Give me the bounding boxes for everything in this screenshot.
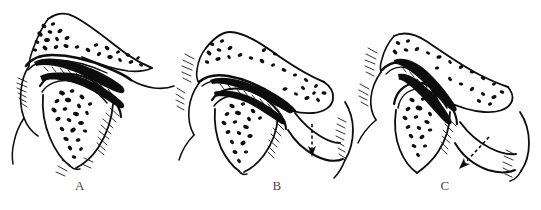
panel-c-drawing [338,0,541,182]
condylar-neck-b [215,109,278,174]
condylar-neck-c [395,110,450,173]
posterior-border-b [179,83,199,160]
tmj-figure: A [0,0,541,210]
trabecular-bone-condyle-a [50,89,92,160]
panel-b-label: B [265,178,289,194]
panel-a-drawing [0,0,180,182]
panel-c-label: C [433,178,457,194]
articular-disc-a-lower [40,73,124,109]
panel-a-label: A [68,178,92,194]
posterior-border-c [358,72,381,143]
panel-c: C [338,0,541,182]
lateral-pterygoid-hatch-a [97,108,119,155]
panel-b: B [168,0,358,182]
panel-b-drawing [168,0,358,182]
trabecular-bone-condyle-b [221,102,263,164]
mandibular-ramus-b [288,113,343,161]
posterior-border-a [21,66,38,136]
panel-a: A [0,0,180,182]
posterior-hatch-c [359,48,377,106]
temporal-bone-b [197,32,334,113]
posterior-hatch-b [176,54,194,110]
